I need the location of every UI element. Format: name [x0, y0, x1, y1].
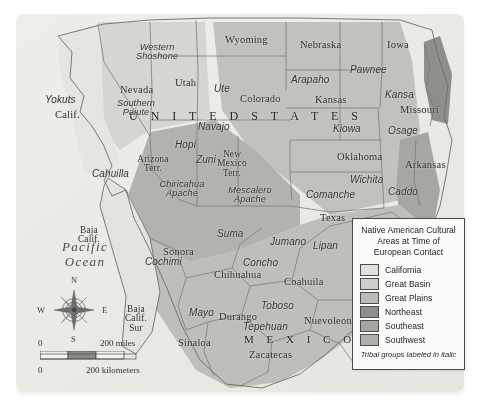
- legend-row-northeast: Northeast: [360, 305, 464, 318]
- state-label-nuevoleon: Nuevoleon: [304, 316, 352, 327]
- tribe-label-arapaho: Arapaho: [291, 75, 330, 85]
- tribe-label-suma: Suma: [217, 229, 244, 239]
- legend-row-california: California: [360, 263, 464, 276]
- state-label-new-mexico-terr: NewMexicoTerr.: [217, 150, 247, 178]
- legend-note: Tribal groups labeled in italic: [353, 350, 464, 360]
- legend-title: Native American Cultural Areas at Time o…: [358, 225, 459, 258]
- compass-west-label: W: [37, 305, 45, 315]
- tribe-label-chiricahua-apache: ChiricahuaApache: [160, 180, 205, 199]
- compass-rose: N S W E: [48, 284, 100, 336]
- tribe-label-comanche: Comanche: [306, 190, 355, 200]
- tribe-label-toboso: Toboso: [261, 301, 294, 311]
- scale-miles-label: 200 miles: [100, 338, 135, 348]
- tribe-label-navajo: Navajo: [198, 122, 230, 132]
- tribe-label-tepehuan: Tepehuan: [243, 322, 288, 332]
- state-label-zacatecas: Zacatecas: [249, 350, 292, 361]
- state-label-baja-calif: BajaCalif.: [78, 226, 100, 245]
- state-label-wyoming: Wyoming: [225, 35, 268, 46]
- tribe-label-kiowa: Kiowa: [333, 124, 361, 134]
- legend-label: Southeast: [385, 321, 424, 331]
- tribe-label-cochimi: Cochimi: [145, 257, 182, 267]
- map-screenshot: U N I T E D S T A T E S M E X I C O Paci…: [0, 0, 481, 414]
- state-label-arkansas: Arkansas: [405, 160, 446, 171]
- state-label-nevada: Nevada: [120, 85, 153, 96]
- state-label-arizona-terr: ArizonaTerr.: [137, 155, 168, 174]
- tribe-label-pawnee: Pawnee: [350, 65, 387, 75]
- state-label-nebraska: Nebraska: [300, 40, 341, 51]
- state-label-utah: Utah: [175, 78, 196, 89]
- legend-swatch-southwest: [360, 334, 379, 346]
- state-label-baja-calif-sur: BajaCalif.Sur: [125, 305, 147, 333]
- state-label-oklahoma: Oklahoma: [337, 152, 382, 163]
- tribe-label-mescalero-apache: MescaleroApache: [228, 186, 271, 205]
- tribe-label-caddo: Caddo: [388, 187, 418, 197]
- state-label-kansas: Kansas: [315, 95, 347, 106]
- compass-east-label: E: [102, 305, 107, 315]
- scale-miles-zero: 0: [38, 338, 43, 348]
- tribe-label-western-shoshone: WesternShoshone: [136, 43, 178, 62]
- tribe-label-lipan: Lipan: [313, 241, 338, 251]
- state-label-texas: Texas: [320, 213, 345, 224]
- legend-label: Great Basin: [385, 279, 430, 289]
- tribe-label-zuni: Zuni: [196, 155, 216, 165]
- state-label-coahuila: Coahuila: [284, 277, 324, 288]
- state-label-missouri: Missouri: [400, 105, 439, 116]
- compass-north-label: N: [71, 275, 77, 285]
- state-label-iowa: Iowa: [387, 40, 409, 51]
- legend-label: California: [385, 265, 421, 275]
- map-legend: Native American Cultural Areas at Time o…: [352, 218, 465, 370]
- tribe-label-concho: Concho: [243, 258, 278, 268]
- legend-swatch-southeast: [360, 320, 379, 332]
- tribe-label-cahuilla: Cahuilla: [92, 169, 129, 179]
- legend-swatch-california: [360, 264, 379, 276]
- legend-swatch-great-plains: [360, 292, 379, 304]
- state-label-colorado: Colorado: [240, 94, 281, 105]
- tribe-label-mayo: Mayo: [189, 308, 214, 318]
- legend-row-southeast: Southeast: [360, 319, 464, 332]
- state-label-chihuahua: Chihuahua: [214, 270, 261, 281]
- legend-swatch-great-basin: [360, 278, 379, 290]
- tribe-label-yokuts: Yokuts: [45, 95, 76, 105]
- legend-label: Great Plains: [385, 293, 432, 303]
- scale-km-label: 200 kilometers: [86, 365, 140, 375]
- legend-row-great-plains: Great Plains: [360, 291, 464, 304]
- country-label-mexico: M E X I C O: [244, 334, 356, 345]
- legend-row-great-basin: Great Basin: [360, 277, 464, 290]
- scale-bar-graphic: [40, 351, 162, 363]
- tribe-label-kansa: Kansa: [385, 90, 414, 100]
- legend-label: Northeast: [385, 307, 422, 317]
- scale-bar: 0 200 miles 0 200 kilometers: [38, 338, 160, 372]
- state-label-calif: Calif.: [55, 110, 80, 121]
- legend-row-southwest: Southwest: [360, 333, 464, 346]
- country-label-united-states: U N I T E D S T A T E S: [129, 110, 363, 122]
- tribe-label-hopi: Hopi: [175, 140, 196, 150]
- legend-label: Southwest: [385, 335, 425, 345]
- state-label-sinaloa: Sinaloa: [178, 338, 211, 349]
- tribe-label-ute: Ute: [214, 84, 230, 94]
- tribe-label-wichita: Wichita: [350, 175, 383, 185]
- compass-rose-icon: [48, 284, 100, 336]
- legend-swatch-northeast: [360, 306, 379, 318]
- tribe-label-southern-paiute: SouthernPaiute: [117, 99, 155, 118]
- tribe-label-osage: Osage: [388, 126, 418, 136]
- tribe-label-jumano: Jumano: [270, 237, 306, 247]
- legend-items: CaliforniaGreat BasinGreat PlainsNorthea…: [353, 263, 464, 346]
- scale-km-zero: 0: [38, 365, 43, 375]
